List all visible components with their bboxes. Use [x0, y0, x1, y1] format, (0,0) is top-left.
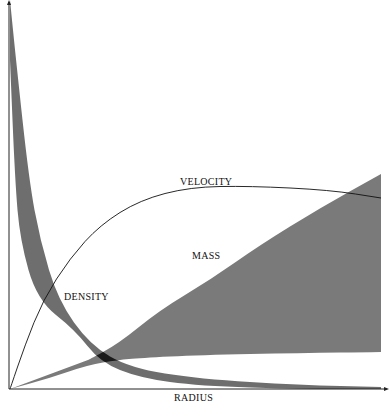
x-axis-label: RADIUS — [174, 392, 213, 403]
mass-area — [10, 174, 381, 389]
mass-label: MASS — [192, 250, 220, 261]
y-axis-arrow-icon — [7, 0, 11, 5]
x-axis-arrow-icon — [384, 387, 389, 391]
chart-canvas — [0, 0, 389, 406]
density-label: DENSITY — [64, 291, 109, 302]
velocity-label: VELOCITY — [180, 176, 232, 187]
